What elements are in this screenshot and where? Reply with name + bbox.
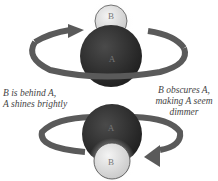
star-a-label: A [109, 54, 116, 64]
star-b-label: B [108, 11, 114, 21]
arrowhead-icon [144, 145, 160, 167]
star-b-label: B [108, 157, 114, 167]
arrowhead-icon [68, 24, 84, 38]
caption-behind: B is behind A, A shines brightly [3, 88, 67, 110]
caption-line: making A seem [150, 96, 218, 107]
caption-line: B is behind A, [3, 88, 67, 99]
caption-obscures: B obscures A, making A seem dimmer [150, 85, 218, 118]
caption-line: A shines brightly [3, 99, 67, 110]
caption-line: B obscures A, [150, 85, 218, 96]
top-scene: B A [32, 0, 185, 87]
star-b: B [94, 143, 130, 179]
star-a-label: A [108, 123, 115, 133]
orbit-arrow-back [35, 30, 70, 42]
caption-line: dimmer [150, 107, 218, 118]
